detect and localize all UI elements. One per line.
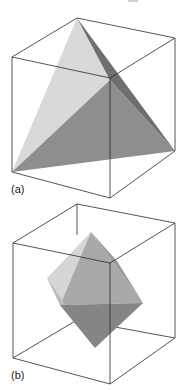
figure-label-a: (a) [11, 183, 24, 195]
figure-b-octahedron-in-cube: (b) [0, 195, 187, 390]
cube-back-edge-left [13, 320, 77, 358]
octahedron-diagram [0, 195, 187, 390]
tetrahedron-diagram [0, 0, 187, 200]
figure-label-b: (b) [11, 369, 24, 381]
figure-a-tetrahedron-in-cube: (a) [0, 0, 187, 200]
octahedron-lower-front-face [60, 303, 143, 348]
